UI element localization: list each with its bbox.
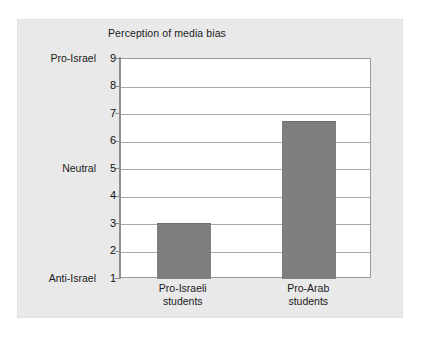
bar <box>282 121 336 279</box>
category-label-line: Pro-Israeli <box>120 282 246 295</box>
y-axis-anchor-label: Pro-Israel <box>20 53 96 64</box>
chart-title: Perception of media bias <box>108 27 226 39</box>
y-axis-anchor-label: Neutral <box>20 163 96 174</box>
category-label-line: Pro-Arab <box>246 282 372 295</box>
gridline <box>121 114 370 115</box>
y-axis-tick-label: 2 <box>100 245 116 256</box>
y-axis-tick-label: 3 <box>100 218 116 229</box>
gridline <box>121 87 370 88</box>
plot-area <box>120 58 371 278</box>
y-axis-tick-label: 6 <box>100 135 116 146</box>
figure-root: Perception of media bias 123456789 Pro-I… <box>0 0 425 338</box>
x-axis-category-labels: Pro-IsraelistudentsPro-Arabstudents <box>120 282 371 322</box>
category-label-line: students <box>246 295 372 308</box>
category-label: Pro-Israelistudents <box>120 282 246 307</box>
bar <box>157 223 211 279</box>
y-axis-tick-labels: 123456789 <box>98 0 116 338</box>
y-axis-tick-label: 5 <box>100 163 116 174</box>
y-axis-tick-label: 1 <box>100 273 116 284</box>
y-axis-anchor-label: Anti-Israel <box>20 273 96 284</box>
y-axis-tick-label: 9 <box>100 53 116 64</box>
y-axis-anchor-labels: Pro-IsraelNeutralAnti-Israel <box>20 0 96 338</box>
y-axis-tick-label: 8 <box>100 80 116 91</box>
y-axis-tick-label: 7 <box>100 108 116 119</box>
category-label: Pro-Arabstudents <box>246 282 372 307</box>
category-label-line: students <box>120 295 246 308</box>
y-axis-spine <box>119 57 121 279</box>
y-axis-tick-label: 4 <box>100 190 116 201</box>
